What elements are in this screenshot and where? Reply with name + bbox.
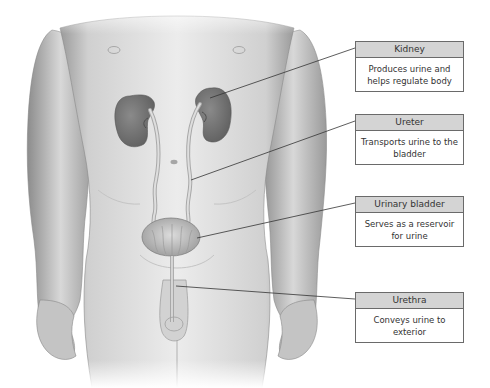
label-box-ureter: Ureter Transports urine to the bladder [355,114,464,165]
label-description-urethra: Conveys urine to exterior [356,309,463,342]
label-title-urinary-bladder: Urinary bladder [356,197,463,213]
label-title-ureter: Ureter [356,115,463,131]
navel [171,160,178,164]
label-box-urinary-bladder: Urinary bladder Serves as a reservoir fo… [355,196,464,247]
label-title-urethra: Urethra [356,293,463,309]
label-description-urinary-bladder: Serves as a reservoir for urine [356,213,463,246]
label-description-kidney: Produces urine and helps regulate body [356,58,463,91]
label-description-ureter: Transports urine to the bladder [356,131,463,164]
urinary-bladder-organ [142,218,200,256]
label-box-urethra: Urethra Conveys urine to exterior [355,292,464,343]
label-box-kidney: Kidney Produces urine and helps regulate… [355,41,464,92]
label-title-kidney: Kidney [356,42,463,58]
